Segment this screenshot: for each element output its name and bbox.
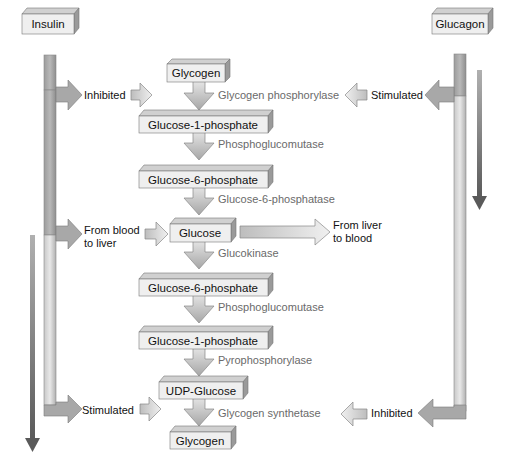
svg-text:Glycogen: Glycogen (176, 435, 225, 447)
svg-text:Glucose-1-phosphate: Glucose-1-phosphate (148, 335, 258, 347)
box-udp-glucose: UDP-Glucose (159, 376, 248, 399)
svg-text:UDP-Glucose: UDP-Glucose (166, 385, 236, 397)
box-glucose-1-phosphate-2: Glucose-1-phosphate (139, 326, 273, 349)
insulin-trend-down-arrow-icon (25, 235, 40, 452)
enzyme-phosphoglucomutase-2: Phosphoglucomutase (218, 301, 324, 313)
enzyme-phosphoglucomutase: Phosphoglucomutase (218, 138, 324, 150)
glucagon-label: Glucagon (435, 18, 484, 30)
glucagon-inhibited-label: Inhibited (371, 407, 413, 419)
insulin-inhibited-label: Inhibited (84, 89, 126, 101)
glucagon-track (418, 54, 466, 427)
insulin-label: Insulin (31, 18, 64, 30)
insulin-track (44, 55, 82, 423)
box-glycogen-top: Glycogen (167, 59, 230, 82)
glucose-export-arrow-icon (240, 219, 330, 245)
inhibit-arrow-icon (131, 83, 152, 107)
svg-text:Glucose-6-phosphate: Glucose-6-phosphate (148, 282, 258, 294)
box-glucose-1-phosphate: Glucose-1-phosphate (139, 110, 273, 133)
stimulate-arrow-icon (345, 83, 367, 107)
svg-text:Glucose-6-phosphate: Glucose-6-phosphate (148, 174, 258, 186)
svg-text:Glucose: Glucose (179, 227, 221, 239)
box-glucose-6-phosphate: Glucose-6-phosphate (139, 165, 273, 188)
svg-text:Glucose-1-phosphate: Glucose-1-phosphate (148, 119, 258, 131)
stimulate-arrow-icon (140, 397, 161, 421)
insulin-from-blood-label: From blood (84, 224, 140, 236)
enzyme-glycogen-synthetase: Glycogen synthetase (218, 407, 321, 419)
glucagon-stimulated-label: Stimulated (371, 89, 423, 101)
transport-arrow-icon (145, 222, 168, 246)
enzyme-pyrophosphorylase: Pyrophosphorylase (218, 354, 312, 366)
glucagon-box: Glucagon (432, 8, 493, 34)
insulin-box: Insulin (22, 8, 79, 34)
export-line1: From liver (333, 219, 382, 231)
box-glycogen-bottom: Glycogen (170, 426, 236, 449)
export-line2: to blood (333, 232, 372, 244)
enzyme-glucose-6-phosphatase: Glucose-6-phosphatase (218, 193, 335, 205)
glucagon-trend-down-arrow-icon (472, 70, 487, 210)
enzyme-glycogen-phosphorylase: Glycogen phosphorylase (218, 89, 339, 101)
svg-text:Glycogen: Glycogen (172, 67, 221, 79)
enzyme-glucokinase: Glucokinase (218, 247, 279, 259)
box-glucose: Glucose (170, 218, 236, 242)
inhibit-arrow-icon (341, 402, 367, 426)
insulin-to-liver-label: to liver (84, 237, 117, 249)
insulin-stimulated-label: Stimulated (82, 404, 134, 416)
box-glucose-6-phosphate-2: Glucose-6-phosphate (139, 273, 273, 296)
